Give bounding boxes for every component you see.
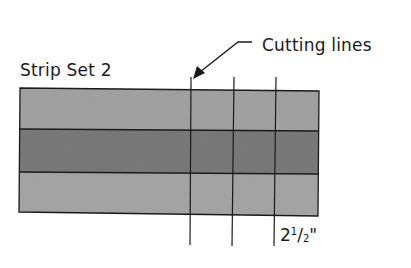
measurement-whole: 2: [280, 225, 291, 245]
measurement-unit: ": [309, 225, 317, 245]
strip-set-title: Strip Set 2: [20, 60, 112, 80]
callout-leader-line: [200, 42, 252, 72]
measurement-label: 21/2": [280, 225, 317, 245]
cutting-lines-label: Cutting lines: [262, 35, 372, 55]
arrowhead-icon: [193, 66, 205, 79]
top-strip: [20, 88, 319, 131]
bottom-strip: [19, 172, 318, 216]
middle-strip: [19, 129, 319, 174]
